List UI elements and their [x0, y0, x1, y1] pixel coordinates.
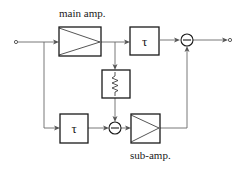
input-terminal: [14, 40, 17, 43]
delay-bottom-label: τ: [71, 121, 76, 136]
delay-bottom-block: τ: [60, 114, 88, 143]
main-amp-block: [59, 27, 101, 56]
sub-amp-block: [131, 114, 160, 143]
output-terminal: [228, 38, 231, 41]
sum-bottom-junction: [109, 122, 121, 134]
sub-amp-label: sub-amp.: [130, 149, 171, 161]
attenuator-block: [102, 70, 130, 98]
delay-top-block: τ: [130, 27, 159, 55]
sum-top-junction: [181, 34, 193, 46]
delay-top-label: τ: [142, 34, 147, 49]
feedforward-amplifier-diagram: main amp. sub-amp.: [0, 0, 246, 169]
main-amp-label: main amp.: [59, 7, 106, 19]
